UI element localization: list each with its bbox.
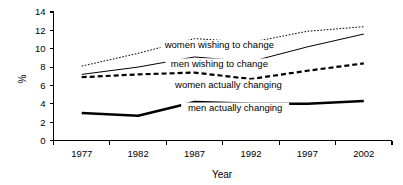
x-tick-label: 1982 <box>128 148 149 159</box>
x-tick-label: 1987 <box>184 148 205 159</box>
y-tick-marks <box>50 12 54 141</box>
x-tick-label: 2002 <box>353 148 374 159</box>
line-chart: 02468101214 197719821987199219972002 wom… <box>0 0 403 185</box>
y-axis-title: % <box>17 74 28 83</box>
y-tick-label: 8 <box>40 61 45 72</box>
y-tick-labels: 02468101214 <box>35 6 46 146</box>
x-tick-marks <box>54 141 393 145</box>
series-label-0: women wishing to change <box>164 39 274 50</box>
x-tick-label: 1977 <box>71 148 92 159</box>
y-tick-label: 0 <box>40 135 45 146</box>
y-tick-label: 14 <box>35 6 46 17</box>
x-tick-label: 1992 <box>240 148 261 159</box>
chart-canvas: 02468101214 197719821987199219972002 wom… <box>0 0 403 185</box>
x-tick-labels: 197719821987199219972002 <box>71 148 374 159</box>
y-tick-label: 6 <box>40 80 45 91</box>
series-label-2: women actually changing <box>174 79 282 90</box>
y-tick-label: 4 <box>40 98 45 109</box>
x-axis-title: Year <box>212 169 233 180</box>
series-label-3: men actually changing <box>188 102 283 113</box>
y-tick-label: 12 <box>35 25 46 36</box>
y-tick-label: 2 <box>40 117 45 128</box>
x-tick-label: 1997 <box>297 148 318 159</box>
series-label-1: men wishing to change <box>171 58 268 69</box>
y-tick-label: 10 <box>35 43 46 54</box>
